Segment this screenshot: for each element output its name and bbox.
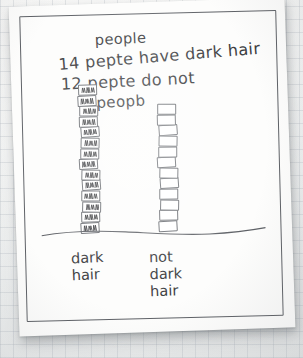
hair-scribble-icon bbox=[83, 214, 98, 222]
chart-unit-square bbox=[157, 156, 177, 168]
photo-canvas: people 14 pepte have dark hair 12 pepte … bbox=[0, 0, 303, 358]
sheet-content: people 14 pepte have dark hair 12 pepte … bbox=[20, 11, 282, 321]
chart-unit-square bbox=[81, 169, 100, 181]
chart-unit-square bbox=[159, 167, 178, 179]
chart-unit-square bbox=[158, 136, 177, 148]
chart-unit-square bbox=[78, 84, 97, 96]
bar-dark-hair bbox=[78, 85, 101, 234]
hair-scribble-icon bbox=[83, 171, 98, 178]
paper-sheet: people 14 pepte have dark hair 12 pepte … bbox=[9, 0, 296, 336]
chart-unit-square bbox=[160, 177, 180, 190]
hair-scribble-icon bbox=[82, 150, 97, 157]
chart-unit-square bbox=[157, 114, 176, 126]
hair-scribble-icon bbox=[83, 193, 98, 200]
chart-unit-square bbox=[82, 179, 102, 192]
chart-unit-square bbox=[157, 104, 176, 115]
chart-unit-square bbox=[80, 126, 100, 139]
axis-baseline bbox=[41, 223, 265, 240]
hair-scribble-icon bbox=[81, 160, 96, 168]
chart-unit-square bbox=[79, 106, 98, 117]
chart-unit-square bbox=[159, 210, 178, 222]
chart-unit-square bbox=[80, 148, 99, 159]
chart-unit-square bbox=[79, 116, 98, 128]
bar-not-dark-hair bbox=[156, 104, 178, 232]
chart-unit-square bbox=[81, 191, 100, 202]
chart-unit-square bbox=[158, 124, 178, 137]
chart-unit-square bbox=[159, 189, 178, 200]
drawn-page-border: people 14 pepte have dark hair 12 pepte … bbox=[19, 10, 283, 322]
hair-scribble-icon bbox=[81, 108, 96, 115]
chart-unit-square bbox=[79, 158, 99, 170]
hair-scribble-icon bbox=[82, 128, 97, 136]
hair-scribble-icon bbox=[83, 139, 98, 146]
category-label-not-dark-hair: not dark hair bbox=[149, 248, 183, 300]
chart-unit-square bbox=[77, 95, 97, 107]
hair-scribble-icon bbox=[79, 97, 94, 105]
hair-scribble-icon bbox=[84, 203, 99, 210]
hair-scribble-icon bbox=[81, 118, 96, 126]
category-label-dark-hair: dark hair bbox=[71, 249, 105, 284]
chart-unit-square bbox=[81, 212, 100, 224]
bar-chart: dark hair not dark hair bbox=[20, 11, 282, 321]
chart-unit-square bbox=[160, 199, 179, 211]
hair-scribble-icon bbox=[84, 181, 99, 189]
chart-unit-square bbox=[82, 201, 101, 213]
chart-unit-square bbox=[158, 146, 177, 157]
hair-scribble-icon bbox=[80, 86, 95, 94]
chart-unit-square bbox=[80, 137, 99, 149]
